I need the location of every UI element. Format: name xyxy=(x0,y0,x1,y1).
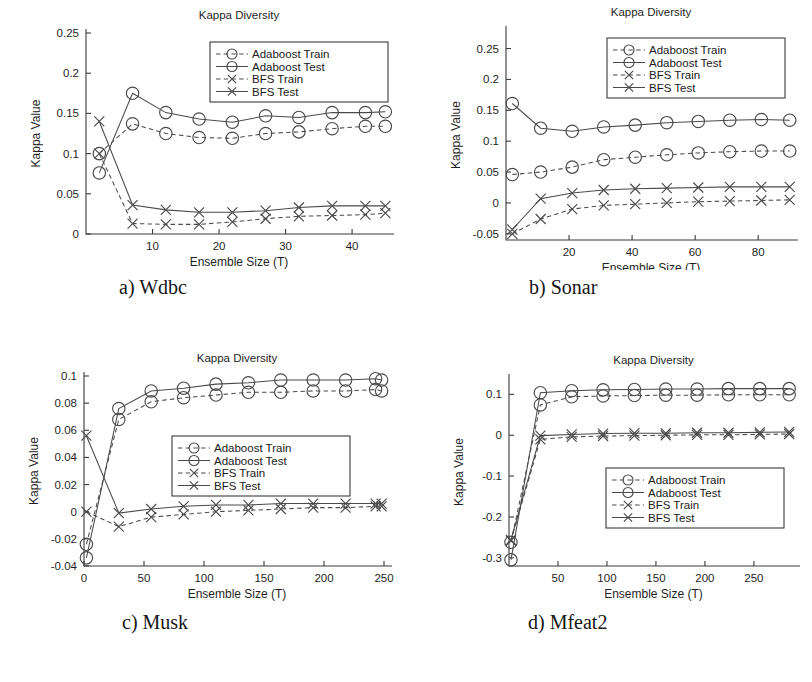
series-line-bfs-test xyxy=(512,187,789,230)
panel-d-mfeat2: Kappa Diversity-0.3-0.2-0.100.1501001502… xyxy=(406,336,812,608)
legend-label-adaboost-test: Adaboost Test xyxy=(649,57,722,69)
legend-label-bfs-train: BFS Train xyxy=(214,467,265,479)
series-line-adaboost-test xyxy=(99,93,385,173)
x-tick-label: 150 xyxy=(254,572,273,584)
panel-a-wdbc: Kappa Diversity00.050.10.150.20.25102030… xyxy=(0,0,406,270)
panel-c-plot: Kappa Diversity-0.04-0.0200.020.040.060.… xyxy=(0,336,406,608)
legend-label-adaboost-train: Adaboost Train xyxy=(214,442,291,454)
chart-legend[interactable]: Adaboost TrainAdaboost TestBFS TrainBFS … xyxy=(606,468,784,528)
x-tick-label: 0 xyxy=(81,572,87,584)
y-tick-label: -0.1 xyxy=(482,470,502,482)
y-tick-label: 0.2 xyxy=(483,73,499,85)
legend-label-bfs-test: BFS Test xyxy=(648,512,695,524)
y-tick-label: 0.1 xyxy=(63,148,79,160)
y-tick-label: -0.05 xyxy=(473,228,499,240)
x-tick-label: 40 xyxy=(346,240,359,252)
x-axis-label: Ensemble Size (T) xyxy=(604,587,703,601)
y-tick-label: 0.02 xyxy=(55,479,77,491)
legend-label-bfs-test: BFS Test xyxy=(214,480,261,492)
x-axis-label: Ensemble Size (T) xyxy=(190,255,289,269)
x-tick-label: 200 xyxy=(314,572,333,584)
marker-x xyxy=(94,149,104,159)
series-line-adaboost-train xyxy=(512,151,789,174)
y-tick-label: 0.06 xyxy=(55,424,77,436)
panel-c-musk: Kappa Diversity-0.04-0.0200.020.040.060.… xyxy=(0,336,406,608)
series-line-bfs-train xyxy=(86,506,381,526)
y-axis-label: Kappa Value xyxy=(449,101,463,169)
marker-circle xyxy=(566,161,578,173)
x-tick-label: 250 xyxy=(374,572,393,584)
y-tick-label: -0.2 xyxy=(482,511,502,523)
marker-x xyxy=(723,430,733,440)
series-line-adaboost-train xyxy=(99,124,385,154)
series-line-bfs-test xyxy=(99,121,385,212)
legend-label-adaboost-test: Adaboost Test xyxy=(648,487,721,499)
series-line-bfs-train xyxy=(512,200,789,234)
legend-label-bfs-train: BFS Train xyxy=(649,69,700,81)
caption-panel-b: b) Sonar xyxy=(529,276,597,299)
marker-x xyxy=(94,116,104,126)
x-tick-label: 20 xyxy=(563,246,576,258)
panel-a-plot: Kappa Diversity00.050.10.150.20.25102030… xyxy=(0,0,406,270)
y-tick-label: 0.08 xyxy=(55,397,77,409)
y-tick-label: -0.04 xyxy=(51,560,78,572)
caption-panel-c: c) Musk xyxy=(122,611,188,634)
marker-x xyxy=(507,225,517,235)
x-tick-label: 10 xyxy=(146,240,159,252)
y-tick-label: 0.04 xyxy=(55,451,78,463)
y-tick-label: 0 xyxy=(493,197,499,209)
y-axis-label: Kappa Value xyxy=(29,99,43,167)
chart-legend[interactable]: Adaboost TrainAdaboost TestBFS TrainBFS … xyxy=(607,38,785,98)
series-line-bfs-train xyxy=(99,154,385,225)
chart-title: Kappa Diversity xyxy=(197,352,278,364)
x-tick-label: 60 xyxy=(689,246,702,258)
panel-d-plot: Kappa Diversity-0.3-0.2-0.100.1501001502… xyxy=(406,336,812,608)
marker-x xyxy=(536,194,546,204)
marker-x xyxy=(161,219,171,229)
marker-circle xyxy=(506,97,518,109)
x-tick-label: 50 xyxy=(552,572,565,584)
marker-x xyxy=(114,522,124,532)
caption-panel-a: a) Wdbc xyxy=(119,276,187,299)
x-tick-label: 20 xyxy=(213,240,226,252)
marker-x xyxy=(179,509,189,519)
chart-legend[interactable]: Adaboost TrainAdaboost TestBFS TrainBFS … xyxy=(172,436,350,496)
panel-b-plot: Kappa Diversity-0.0500.050.10.150.20.252… xyxy=(406,0,812,270)
marker-circle xyxy=(126,118,138,130)
y-tick-label: 0.15 xyxy=(57,107,79,119)
figure-kappa-diversity-panels: Kappa Diversity00.050.10.150.20.25102030… xyxy=(0,0,812,682)
x-tick-label: 100 xyxy=(194,572,213,584)
y-tick-label: 0.05 xyxy=(57,188,79,200)
chart-title: Kappa Diversity xyxy=(611,6,692,18)
y-tick-label: 0.05 xyxy=(477,166,499,178)
chart-d: Kappa Diversity-0.3-0.2-0.100.1501001502… xyxy=(406,336,812,608)
y-tick-label: 0.15 xyxy=(477,104,499,116)
y-tick-label: 0 xyxy=(73,228,79,240)
y-tick-label: 0.25 xyxy=(57,27,79,39)
y-tick-label: 0.1 xyxy=(486,388,502,400)
x-tick-label: 200 xyxy=(695,572,714,584)
y-tick-label: 0.2 xyxy=(63,67,79,79)
y-axis-label: Kappa Value xyxy=(452,438,466,506)
y-tick-label: 0.1 xyxy=(483,135,499,147)
y-tick-label: 0.1 xyxy=(61,370,77,382)
legend-label-bfs-train: BFS Train xyxy=(252,73,303,85)
legend-label-adaboost-train: Adaboost Train xyxy=(252,48,329,60)
chart-a: Kappa Diversity00.050.10.150.20.25102030… xyxy=(0,0,406,270)
chart-title: Kappa Diversity xyxy=(613,354,694,366)
legend-label-bfs-test: BFS Test xyxy=(649,82,696,94)
chart-plot-area xyxy=(93,87,391,229)
x-tick-label: 100 xyxy=(597,572,616,584)
series-line-adaboost-test xyxy=(512,104,789,132)
x-tick-label: 150 xyxy=(646,572,665,584)
legend-label-bfs-test: BFS Test xyxy=(252,86,299,98)
marker-x xyxy=(567,204,577,214)
panel-b-sonar: Kappa Diversity-0.0500.050.10.150.20.252… xyxy=(406,0,812,270)
legend-label-bfs-train: BFS Train xyxy=(648,499,699,511)
x-tick-label: 250 xyxy=(744,572,763,584)
x-axis-label: Ensemble Size (T) xyxy=(602,261,701,270)
legend-label-adaboost-test: Adaboost Test xyxy=(214,455,287,467)
y-tick-label: 0.25 xyxy=(477,43,499,55)
y-tick-label: -0.3 xyxy=(482,552,502,564)
chart-legend[interactable]: Adaboost TrainAdaboost TestBFS TrainBFS … xyxy=(210,42,388,102)
